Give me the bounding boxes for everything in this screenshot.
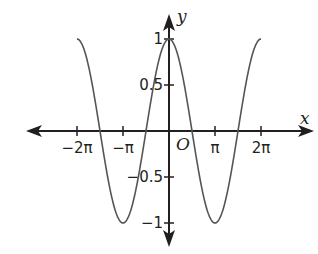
origin-label: O xyxy=(176,134,190,154)
y-tick-label: −1 xyxy=(141,214,163,232)
y-axis-label: y xyxy=(176,6,187,26)
y-tick-label: 1 xyxy=(153,30,163,48)
y-tick-label: 0.5 xyxy=(139,76,163,94)
axes xyxy=(26,14,314,247)
y-tick-label: −0.5 xyxy=(127,168,163,186)
x-tick-label: −π xyxy=(112,139,134,157)
cosine-graph: −2π−ππ2π10.5−0.5−1Oyx xyxy=(0,0,318,254)
x-tick-label: π xyxy=(210,139,219,157)
x-axis-label: x xyxy=(300,108,310,128)
x-tick-label: 2π xyxy=(252,139,271,157)
x-tick-label: −2π xyxy=(61,139,92,157)
